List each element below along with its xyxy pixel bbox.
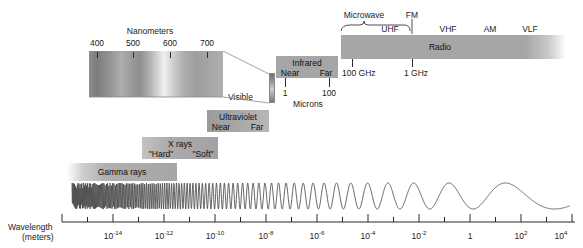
- callout-line-top: [223, 51, 269, 74]
- diagram-vector-overlay: [0, 0, 583, 248]
- microwave-brace: [341, 21, 410, 31]
- callout-line-bottom: [223, 97, 269, 103]
- em-spectrum-diagram: Nanometers 400 500 600 700 Visible Infra…: [0, 0, 583, 248]
- wave-illustration: [72, 183, 570, 209]
